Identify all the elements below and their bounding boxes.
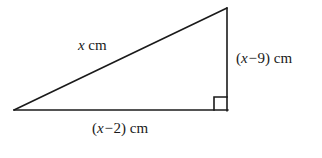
right-angle-marker-icon bbox=[214, 97, 227, 110]
triangle-hypotenuse-line bbox=[14, 8, 227, 110]
vertical-operator: − bbox=[248, 50, 258, 66]
base-variable: x bbox=[97, 120, 104, 136]
vertical-close-paren: ) bbox=[265, 50, 270, 66]
base-number: 2 bbox=[113, 120, 121, 136]
vertical-side-label: (x−9)cm bbox=[236, 51, 292, 66]
base-operator: − bbox=[104, 120, 114, 136]
base-close-paren: ) bbox=[121, 120, 126, 136]
hypotenuse-label: xcm bbox=[78, 38, 107, 53]
hypotenuse-variable: x bbox=[78, 37, 85, 53]
vertical-unit: cm bbox=[274, 50, 293, 66]
base-side-label: (x−2)cm bbox=[92, 121, 148, 136]
base-unit: cm bbox=[130, 120, 149, 136]
vertical-variable: x bbox=[241, 50, 248, 66]
vertical-number: 9 bbox=[257, 50, 265, 66]
right-triangle-figure: xcm (x−9)cm (x−2)cm bbox=[0, 0, 322, 158]
triangle-drawing bbox=[0, 0, 322, 158]
hypotenuse-unit: cm bbox=[88, 37, 107, 53]
